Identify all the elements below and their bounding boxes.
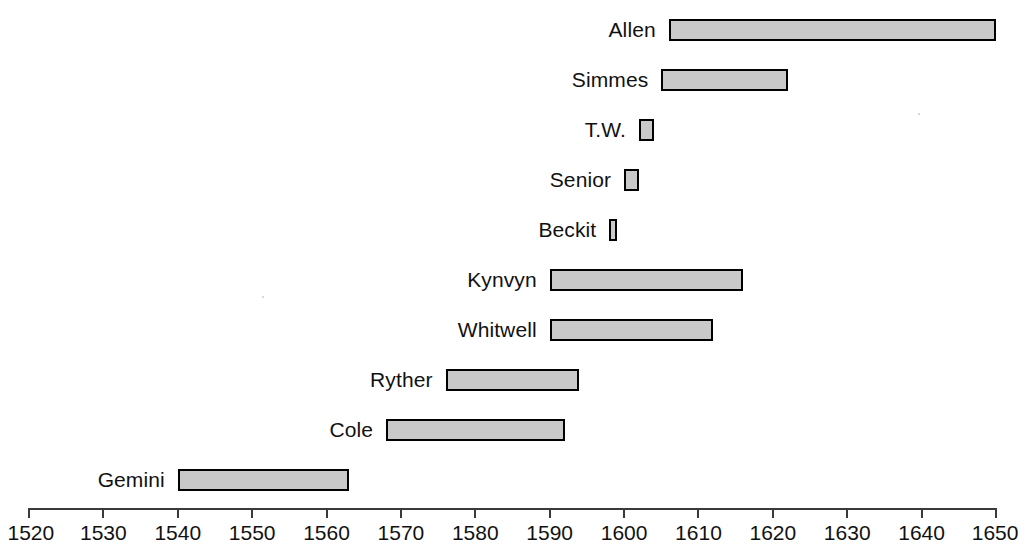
x-axis-tick <box>400 508 402 518</box>
x-axis-tick-label: 1570 <box>378 520 425 546</box>
bar-row: Senior <box>0 155 1025 205</box>
bar-row: Simmes <box>0 55 1025 105</box>
x-axis-tick <box>474 508 476 518</box>
x-axis-tick-label: 1610 <box>675 520 722 546</box>
x-axis-tick-label: 1530 <box>80 520 127 546</box>
x-axis-tick <box>251 508 253 518</box>
x-axis: 1520153015401550156015701580159016001610… <box>0 500 1025 549</box>
bar-label: Kynvyn <box>467 268 536 292</box>
bar-row: Beckit <box>0 205 1025 255</box>
bar-label: Simmes <box>572 68 648 92</box>
bar-whitwell <box>550 319 714 341</box>
bar-label: Whitwell <box>458 318 537 342</box>
x-axis-tick <box>623 508 625 518</box>
gantt-chart: AllenSimmesT.W.SeniorBeckitKynvynWhitwel… <box>0 0 1025 549</box>
x-axis-tick-label: 1550 <box>229 520 276 546</box>
bar-beckit <box>609 219 616 241</box>
x-axis-tick-label: 1580 <box>452 520 499 546</box>
bar-ryther <box>446 369 580 391</box>
x-axis-tick-label: 1640 <box>898 520 945 546</box>
bar-label: Beckit <box>538 218 596 242</box>
bar-row: Gemini <box>0 455 1025 505</box>
bar-label: Ryther <box>370 368 432 392</box>
bar-row: T.W. <box>0 105 1025 155</box>
x-axis-tick <box>177 508 179 518</box>
x-axis-tick-label: 1540 <box>154 520 201 546</box>
x-axis-line <box>29 508 996 510</box>
x-axis-tick <box>697 508 699 518</box>
x-axis-tick-label: 1590 <box>526 520 573 546</box>
bar-kynvyn <box>550 269 743 291</box>
x-axis-tick <box>549 508 551 518</box>
bar-t-w <box>639 119 654 141</box>
x-axis-tick-label: 1600 <box>601 520 648 546</box>
x-axis-tick-label: 1650 <box>972 520 1019 546</box>
bar-gemini <box>178 469 349 491</box>
x-axis-tick-label: 1620 <box>749 520 796 546</box>
bar-cole <box>386 419 565 441</box>
bar-row: Ryther <box>0 355 1025 405</box>
x-axis-tick <box>772 508 774 518</box>
bar-allen <box>669 19 996 41</box>
x-axis-tick-label: 1630 <box>824 520 871 546</box>
bar-label: Cole <box>329 418 373 442</box>
scan-speck <box>262 296 264 298</box>
x-axis-tick <box>102 508 104 518</box>
x-axis-tick <box>995 508 997 518</box>
bar-row: Kynvyn <box>0 255 1025 305</box>
bar-label: Allen <box>609 18 656 42</box>
x-axis-tick <box>921 508 923 518</box>
x-axis-tick-label: 1560 <box>303 520 350 546</box>
bar-label: Senior <box>550 168 611 192</box>
bar-row: Allen <box>0 5 1025 55</box>
x-axis-tick <box>28 508 30 518</box>
bar-label: T.W. <box>585 118 626 142</box>
x-axis-tick <box>326 508 328 518</box>
bar-row: Whitwell <box>0 305 1025 355</box>
bar-row: Cole <box>0 405 1025 455</box>
x-axis-tick-label: 1520 <box>8 520 55 546</box>
bar-label: Gemini <box>98 468 165 492</box>
bar-senior <box>624 169 639 191</box>
x-axis-tick <box>846 508 848 518</box>
bar-simmes <box>661 69 787 91</box>
plot-area: AllenSimmesT.W.SeniorBeckitKynvynWhitwel… <box>0 0 1025 500</box>
scan-speck <box>918 113 920 115</box>
